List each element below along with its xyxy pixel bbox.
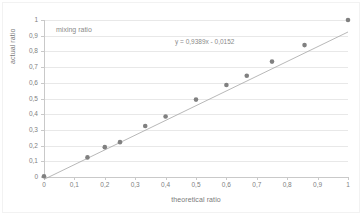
data-point-marker [143,124,148,129]
data-point-marker [194,97,199,102]
data-point-marker [103,145,108,150]
data-point-marker [224,83,229,88]
chart-title-annotation: mixing ratio [56,26,92,33]
y-axis-title: actual ratio [9,29,16,64]
data-series-layer [0,0,364,217]
data-point-marker [118,140,123,145]
data-point-marker [85,155,90,160]
data-point-marker [163,114,168,119]
trendline-equation-label: y = 0,9389x - 0,0152 [175,38,234,45]
data-point-marker [346,18,351,23]
data-point-marker [244,73,249,78]
data-point-marker [270,59,275,64]
data-point-marker [42,174,47,179]
x-axis-title: theoretical ratio [44,196,348,203]
scatter-chart: 00,10,20,30,40,50,60,70,80,9100,10,20,30… [0,0,364,217]
data-point-marker [302,43,307,48]
